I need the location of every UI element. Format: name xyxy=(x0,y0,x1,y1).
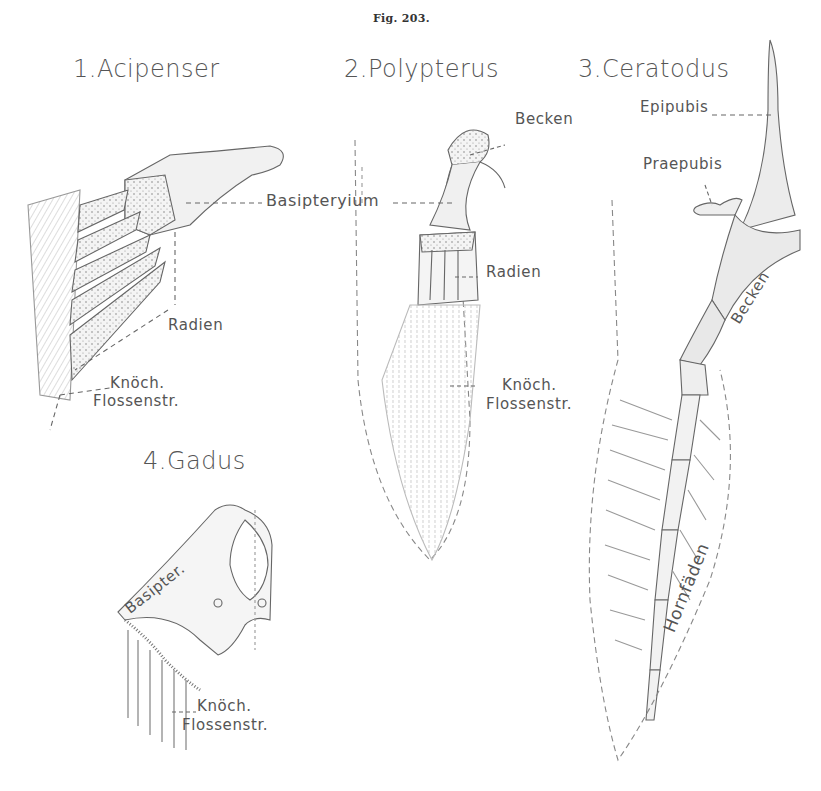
label-acipenser-knoch: Knöch. xyxy=(110,375,165,392)
label-praepubis: Praepubis xyxy=(643,156,722,173)
ceratodus-drawing xyxy=(589,40,800,760)
label-gadus-flossenstr: Flossenstr. xyxy=(182,717,268,734)
label-polypterus-knoch: Knöch. xyxy=(502,377,557,394)
panel-title-gadus: 4.Gadus xyxy=(143,447,246,475)
label-acipenser-flossenstr: Flossenstr. xyxy=(93,393,179,410)
label-basipterygium: Basipteryium xyxy=(266,192,379,210)
label-gadus-knoch: Knöch. xyxy=(197,698,252,715)
figure-number: Fig. 203. xyxy=(373,12,430,25)
label-epipubis: Epipubis xyxy=(640,99,709,116)
panel-title-acipenser: 1.Acipenser xyxy=(73,55,220,83)
label-polypterus-flossenstr: Flossenstr. xyxy=(486,396,572,413)
panel-title-polypterus: 2.Polypterus xyxy=(344,55,499,83)
label-polypterus-becken: Becken xyxy=(515,111,573,128)
panel-title-ceratodus: 3.Ceratodus xyxy=(578,55,730,83)
label-polypterus-radien: Radien xyxy=(486,264,541,281)
label-acipenser-radien: Radien xyxy=(168,317,223,334)
